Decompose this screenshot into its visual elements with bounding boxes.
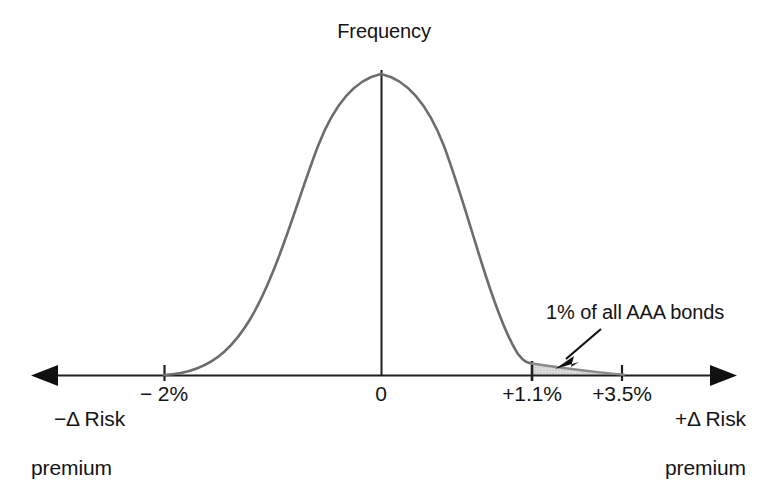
chart-title: Frequency xyxy=(337,20,431,44)
axis-label-negative-line2: premium xyxy=(31,456,125,481)
axis-label-positive-risk-premium: +Δ Risk premium xyxy=(652,382,746,483)
annotation-arrow-line xyxy=(566,329,601,359)
axis-label-positive-line1: +Δ Risk xyxy=(675,407,746,430)
axis-label-positive-line2: premium xyxy=(652,456,746,481)
x-tick-label-plus11: +1.1% xyxy=(502,382,562,407)
axis-label-negative-line1: −Δ Risk xyxy=(54,407,125,430)
shaded-region-annotation: 1% of all AAA bonds xyxy=(546,301,724,325)
x-tick-label-neg2: − 2% xyxy=(140,382,188,407)
x-tick-label-zero: 0 xyxy=(375,382,387,407)
x-tick-label-plus35: +3.5% xyxy=(592,382,652,407)
axis-label-negative-risk-premium: −Δ Risk premium xyxy=(31,382,125,483)
bell-curve-path xyxy=(164,74,532,375)
